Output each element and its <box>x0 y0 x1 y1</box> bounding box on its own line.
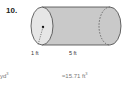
cylinder-body <box>42 7 121 45</box>
radius-label: 1 ft <box>31 50 39 56</box>
answer-right-exp: 3 <box>85 71 87 76</box>
answer-right: ≈15.71 ft3 <box>62 73 88 79</box>
length-label: 5 ft <box>69 50 77 56</box>
cylinder-front-face <box>31 7 53 45</box>
answer-left-exp: 3 <box>6 71 8 76</box>
answer-left: yd3 <box>0 73 9 79</box>
answer-right-value: ≈15.71 ft <box>62 73 85 79</box>
